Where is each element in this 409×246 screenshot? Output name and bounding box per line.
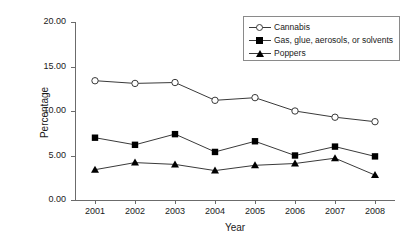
line-chart: Percentage 0.005.0010.0015.0020.00 20012…: [0, 0, 409, 246]
data-point-open-circle: [172, 79, 178, 85]
data-point-open-circle: [212, 97, 218, 103]
data-point-open-circle: [332, 114, 338, 120]
data-point-open-circle: [372, 118, 378, 124]
data-point-triangle: [331, 154, 339, 161]
data-point-square: [372, 153, 378, 159]
legend-label: Cannabis: [271, 22, 310, 33]
data-point-square: [252, 138, 258, 144]
legend-label: Poppers: [271, 48, 306, 59]
legend-label: Gas, glue, aerosols, or solvents: [271, 35, 393, 46]
chart-legend: Cannabis Gas, glue, aerosols, or solvent…: [243, 16, 400, 61]
data-point-open-circle: [92, 78, 98, 84]
data-point-square: [172, 131, 178, 137]
data-point-square: [132, 142, 138, 148]
data-point-triangle: [131, 159, 139, 166]
legend-item-poppers[interactable]: Poppers: [249, 47, 394, 60]
series-cannabis: [92, 78, 378, 125]
legend-marker-open-circle-icon: [249, 22, 271, 33]
legend-marker-triangle-icon: [249, 48, 271, 59]
series-poppers: [91, 154, 379, 178]
data-point-square: [92, 135, 98, 141]
x-axis-title: Year: [75, 222, 395, 233]
data-point-triangle: [371, 171, 379, 178]
data-point-open-circle: [292, 108, 298, 114]
data-point-square: [332, 143, 338, 149]
legend-item-solvents[interactable]: Gas, glue, aerosols, or solvents: [249, 34, 394, 47]
legend-item-cannabis[interactable]: Cannabis: [249, 21, 394, 34]
data-point-open-circle: [132, 80, 138, 86]
data-point-open-circle: [252, 94, 258, 100]
data-point-square: [212, 149, 218, 155]
legend-marker-square-icon: [249, 35, 271, 46]
data-point-square: [292, 152, 298, 158]
